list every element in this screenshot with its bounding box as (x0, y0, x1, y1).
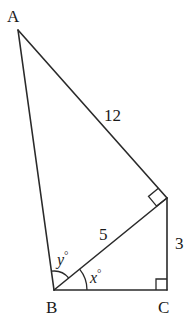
segment-bd (54, 198, 167, 290)
side-label-ad: 12 (104, 106, 121, 125)
side-label-dc: 3 (175, 234, 184, 253)
vertex-label-c: C (158, 298, 169, 317)
right-angle-mark-c (156, 279, 167, 290)
right-angle-mark-d (149, 188, 168, 206)
angle-arc-y (51, 271, 68, 278)
vertex-label-b: B (46, 298, 57, 317)
vertex-label-a: A (7, 7, 20, 26)
angle-var-x: x (89, 269, 97, 286)
angle-label-y: y° (55, 249, 69, 269)
geometry-diagram: A B C 12 5 3 y° x° (0, 0, 185, 321)
angle-arc-x (80, 269, 87, 290)
segment-ab (18, 30, 54, 290)
side-label-bd: 5 (99, 225, 108, 244)
segment-ad (18, 30, 167, 198)
degree-symbol: ° (97, 267, 101, 279)
degree-symbol: ° (64, 249, 68, 261)
angle-label-x: x° (89, 267, 102, 286)
